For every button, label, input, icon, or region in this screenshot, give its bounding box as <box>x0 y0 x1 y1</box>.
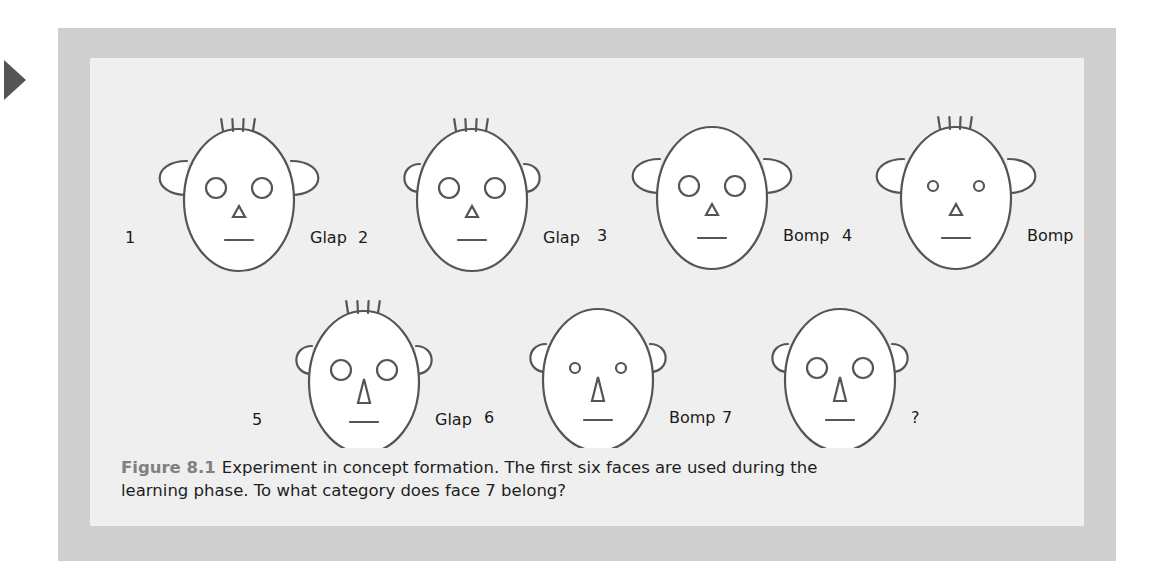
right-triangle-arrow-icon <box>4 60 26 100</box>
face-category-7: ? <box>911 409 920 427</box>
caption-label: Figure 8.1 <box>121 458 216 477</box>
figure-caption: Figure 8.1Experiment in concept formatio… <box>121 456 1021 502</box>
face-category-3: Bomp <box>783 227 830 245</box>
face-category-2: Glap <box>543 229 580 247</box>
face-number-6: 6 <box>484 409 494 427</box>
right-ear-icon <box>1008 159 1035 193</box>
hair-strand-icon <box>378 301 380 313</box>
hair-strand-icon <box>253 119 255 131</box>
caption-line-1: Experiment in concept formation. The fir… <box>222 458 818 477</box>
hair-strand-icon <box>465 119 466 131</box>
head-outline <box>657 127 767 269</box>
hair-strand-icon <box>476 119 477 131</box>
hair-strand-icon <box>221 119 223 131</box>
faces-illustration <box>90 58 1084 448</box>
face-number-4: 4 <box>842 227 852 245</box>
face-4 <box>877 117 1036 269</box>
hair-strand-icon <box>232 119 233 131</box>
face-category-1: Glap <box>310 229 347 247</box>
head-outline <box>184 129 294 271</box>
face-category-4: Bomp <box>1027 227 1074 245</box>
face-category-6: Bomp <box>669 409 716 427</box>
hair-strand-icon <box>949 117 950 129</box>
hair-strand-icon <box>368 301 369 313</box>
right-ear-icon <box>291 161 318 195</box>
face-5 <box>296 301 431 448</box>
face-category-5: Glap <box>435 411 472 429</box>
face-2 <box>404 119 539 271</box>
face-number-2: 2 <box>358 229 368 247</box>
left-ear-icon <box>633 159 660 193</box>
hair-strand-icon <box>970 117 972 129</box>
face-7 <box>772 309 907 448</box>
hair-strand-icon <box>243 119 244 131</box>
face-number-1: 1 <box>125 229 135 247</box>
hair-strand-icon <box>346 301 348 313</box>
hair-strand-icon <box>486 119 488 131</box>
caption-line-2: learning phase. To what category does fa… <box>121 481 566 500</box>
face-number-3: 3 <box>597 227 607 245</box>
left-ear-icon <box>160 161 187 195</box>
figure-panel: 1Glap2Glap3Bomp4Bomp5Glap6Bomp7? Figure … <box>90 58 1084 526</box>
head-outline <box>901 127 1011 269</box>
face-6 <box>530 309 665 448</box>
hair-strand-icon <box>454 119 456 131</box>
face-number-5: 5 <box>252 411 262 429</box>
left-ear-icon <box>877 159 904 193</box>
right-ear-icon <box>764 159 791 193</box>
hair-strand-icon <box>357 301 358 313</box>
hair-strand-icon <box>960 117 961 129</box>
figure-frame: 1Glap2Glap3Bomp4Bomp5Glap6Bomp7? Figure … <box>58 28 1116 561</box>
hair-strand-icon <box>938 117 940 129</box>
head-outline <box>417 129 527 271</box>
face-1 <box>160 119 319 271</box>
face-3 <box>633 127 792 269</box>
face-number-7: 7 <box>722 409 732 427</box>
